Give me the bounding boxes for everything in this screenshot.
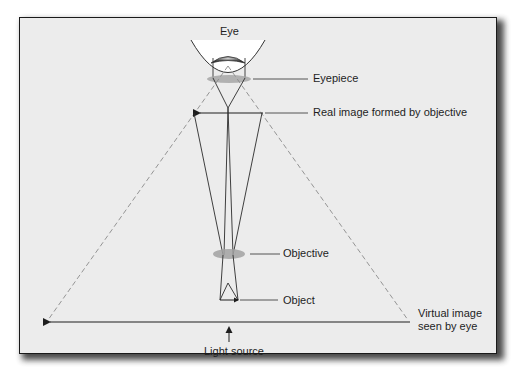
light-source-label: Light source — [204, 345, 264, 357]
real-image-label: Real image formed by objective — [313, 106, 467, 118]
objective-ray-2 — [224, 108, 228, 255]
light-source-arrowhead-icon — [226, 326, 233, 333]
eye-label: Eye — [220, 25, 239, 37]
microscope-ray-diagram: Eye Eyepiece Real image formed by object… — [0, 0, 516, 387]
objective-ray-4 — [233, 113, 262, 255]
diagram-stage: Eye Eyepiece Real image formed by object… — [0, 0, 516, 387]
object-label: Object — [283, 294, 315, 306]
objective-ray-1 — [194, 113, 223, 255]
eye-icon — [191, 40, 265, 73]
virtual-ray-right — [228, 66, 408, 320]
objective-label: Objective — [283, 247, 329, 259]
virtual-image-label-line2: seen by eye — [418, 320, 477, 332]
object-rays — [220, 255, 238, 300]
objective-lens-icon — [213, 249, 245, 259]
virtual-image-label-line1: Virtual image — [418, 307, 482, 319]
virtual-ray-left — [48, 66, 228, 320]
objective-ray-3 — [228, 108, 233, 255]
eyepiece-label: Eyepiece — [313, 72, 358, 84]
